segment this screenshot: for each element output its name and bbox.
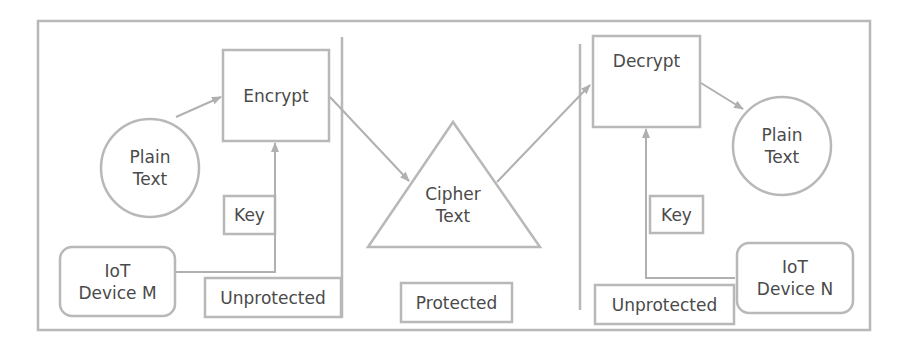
cipher-text-label: Cipher Text (400, 180, 506, 230)
protected-label: Protected (401, 283, 512, 322)
encrypt-label: Encrypt (223, 50, 329, 141)
iot-device-n-label: IoT Device N (737, 243, 853, 313)
unprotected-label-receiver: Unprotected (595, 285, 734, 324)
key-label-receiver: Key (650, 196, 703, 233)
key-label-sender: Key (224, 196, 275, 234)
arrow-plain-to-encrypt (176, 97, 221, 117)
arrow-cipher-to-decrypt (497, 85, 590, 182)
unprotected-label-sender: Unprotected (205, 278, 341, 317)
plain-text-label-receiver: Plain Text (733, 97, 831, 195)
iot-device-m-label: IoT Device M (60, 247, 175, 316)
decrypt-label: Decrypt (593, 36, 700, 86)
plain-text-label-sender: Plain Text (101, 119, 199, 217)
